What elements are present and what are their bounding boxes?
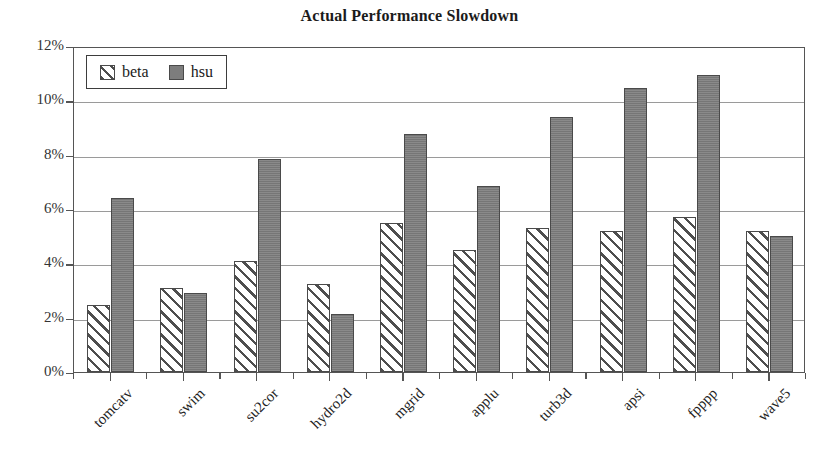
- legend-item-beta[interactable]: beta: [100, 63, 149, 81]
- bar-mgrid-beta: [380, 223, 403, 372]
- y-tick-mark: [66, 210, 73, 211]
- x-tick-label-mgrid: mgrid: [391, 385, 428, 422]
- x-tick-mark: [256, 373, 257, 381]
- bar-mgrid-hsu: [404, 134, 427, 372]
- legend-item-hsu[interactable]: hsu: [169, 63, 213, 81]
- x-tick-boundary: [585, 373, 586, 379]
- bar-wave5-beta: [746, 231, 769, 372]
- y-tick-mark: [66, 373, 73, 374]
- y-tick-mark: [66, 156, 73, 157]
- bar-hydro2d-beta: [307, 284, 330, 372]
- performance-slowdown-chart: Actual Performance Slowdown 0%2%4%6%8%10…: [0, 0, 819, 471]
- bar-apsi-beta: [600, 231, 623, 372]
- x-tick-label-swim: swim: [173, 385, 208, 420]
- bar-tomcatv-hsu: [111, 198, 134, 372]
- chart-title: Actual Performance Slowdown: [0, 7, 819, 25]
- x-tick-label-wave5: wave5: [755, 385, 795, 425]
- y-tick-mark: [66, 101, 73, 102]
- x-tick-mark: [110, 373, 111, 381]
- x-tick-boundary: [366, 373, 367, 379]
- bar-applu-beta: [453, 250, 476, 372]
- chart-legend: beta hsu: [86, 55, 227, 89]
- x-tick-boundary: [512, 373, 513, 379]
- y-tick-label: 8%: [12, 146, 64, 163]
- x-tick-boundary: [219, 373, 220, 379]
- y-tick-label: 10%: [12, 91, 64, 108]
- x-tick-label-su2cor: su2cor: [242, 385, 282, 425]
- bar-swim-beta: [160, 288, 183, 372]
- y-tick-label: 12%: [12, 37, 64, 54]
- x-tick-mark: [476, 373, 477, 381]
- x-tick-boundary: [439, 373, 440, 379]
- x-tick-boundary: [805, 373, 806, 379]
- x-tick-boundary: [146, 373, 147, 379]
- plot-area: [73, 47, 805, 373]
- y-tick-mark: [66, 47, 73, 48]
- x-tick-boundary: [659, 373, 660, 379]
- bar-tomcatv-beta: [87, 305, 110, 372]
- x-tick-boundary: [73, 373, 74, 379]
- y-tick-mark: [66, 319, 73, 320]
- x-tick-label-tomcatv: tomcatv: [90, 385, 136, 431]
- legend-swatch-hsu-icon: [169, 65, 184, 80]
- x-tick-boundary: [732, 373, 733, 379]
- x-tick-boundary: [293, 373, 294, 379]
- x-tick-mark: [622, 373, 623, 381]
- x-tick-mark: [183, 373, 184, 381]
- x-tick-mark: [402, 373, 403, 381]
- x-tick-mark: [768, 373, 769, 381]
- x-tick-mark: [695, 373, 696, 381]
- legend-label-hsu: hsu: [191, 63, 213, 81]
- y-tick-label: 6%: [12, 200, 64, 217]
- legend-swatch-beta-icon: [100, 65, 115, 80]
- x-tick-label-applu: applu: [466, 385, 502, 421]
- x-tick-label-turb3d: turb3d: [535, 385, 575, 425]
- bar-su2cor-beta: [234, 261, 257, 372]
- x-tick-mark: [549, 373, 550, 381]
- bar-apsi-hsu: [624, 88, 647, 372]
- y-tick-mark: [66, 264, 73, 265]
- bar-swim-hsu: [184, 293, 207, 372]
- x-tick-label-apsi: apsi: [619, 385, 648, 414]
- x-tick-label-hydro2d: hydro2d: [308, 385, 355, 432]
- y-tick-label: 2%: [12, 309, 64, 326]
- x-tick-mark: [329, 373, 330, 381]
- bar-wave5-hsu: [770, 236, 793, 372]
- x-tick-label-fpppp: fpppp: [684, 385, 721, 422]
- y-tick-label: 0%: [12, 363, 64, 380]
- bar-su2cor-hsu: [258, 159, 281, 372]
- bars-layer: [74, 48, 804, 372]
- y-tick-label: 4%: [12, 254, 64, 271]
- bar-turb3d-beta: [526, 228, 549, 372]
- legend-label-beta: beta: [122, 63, 149, 81]
- bar-hydro2d-hsu: [331, 314, 354, 372]
- bar-fpppp-hsu: [697, 75, 720, 372]
- bar-turb3d-hsu: [550, 117, 573, 372]
- bar-fpppp-beta: [673, 217, 696, 372]
- bar-applu-hsu: [477, 186, 500, 372]
